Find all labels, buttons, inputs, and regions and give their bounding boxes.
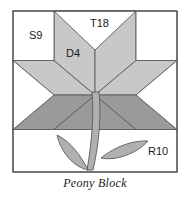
figure-caption: Peony Block [0,176,190,191]
label-diamond-d4: D4 [66,47,80,59]
label-rectangle-r10: R10 [148,145,168,157]
peony-block-figure: S9 T18 D4 R10 Peony Block [0,0,190,199]
label-triangle-t18: T18 [90,17,109,29]
peony-block-diagram: S9 T18 D4 R10 [0,0,190,199]
label-square-s9: S9 [29,29,42,41]
corner-square-upper-right [136,11,177,61]
